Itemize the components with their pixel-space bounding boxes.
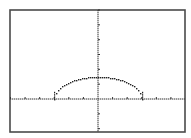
- x-tick: [170, 97, 171, 99]
- x-tick: [39, 97, 40, 99]
- x-tick: [83, 97, 84, 99]
- graph-canvas: [0, 0, 191, 138]
- y-tick: [98, 84, 100, 85]
- x-tick: [156, 97, 157, 99]
- x-tick: [10, 97, 11, 99]
- y-tick: [98, 113, 100, 114]
- x-tick: [25, 97, 26, 99]
- x-tick: [68, 97, 69, 99]
- y-tick: [98, 128, 100, 129]
- x-tick: [112, 97, 113, 99]
- y-tick: [98, 54, 100, 55]
- plotted-curve-semicircle: [54, 77, 143, 100]
- y-tick: [98, 10, 100, 11]
- calculator-graph-screen: [0, 0, 191, 138]
- y-tick: [98, 24, 100, 25]
- y-tick: [98, 39, 100, 40]
- x-tick: [127, 97, 128, 99]
- y-tick: [98, 69, 100, 70]
- axes: [10, 10, 185, 133]
